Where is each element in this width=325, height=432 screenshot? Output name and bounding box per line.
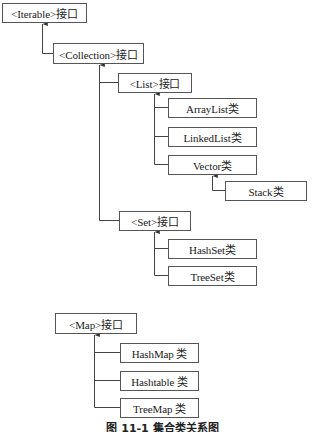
node-collection-interface: <Collection>接口	[53, 43, 144, 64]
node-set-interface: <Set>接口	[119, 211, 191, 231]
node-stack-class: Stack类	[225, 181, 307, 201]
node-iterable-interface: <Iterable>接口	[2, 3, 87, 23]
node-map-interface: <Map>接口	[55, 313, 137, 334]
figure-caption: 图 11-1 集合类关系图	[0, 419, 325, 432]
node-hashset-class: HashSet类	[168, 239, 257, 259]
node-arraylist-class: ArrayList类	[168, 98, 257, 118]
node-vector-class: Vector类	[168, 155, 257, 175]
node-treeset-class: TreeSet类	[168, 266, 257, 286]
node-treemap-class: TreeMap 类	[120, 398, 199, 418]
node-hashmap-class: HashMap 类	[120, 343, 199, 363]
node-linkedlist-class: LinkedList类	[168, 127, 257, 147]
node-hashtable-class: Hashtable 类	[120, 371, 199, 391]
node-list-interface: <List>接口	[118, 73, 192, 93]
